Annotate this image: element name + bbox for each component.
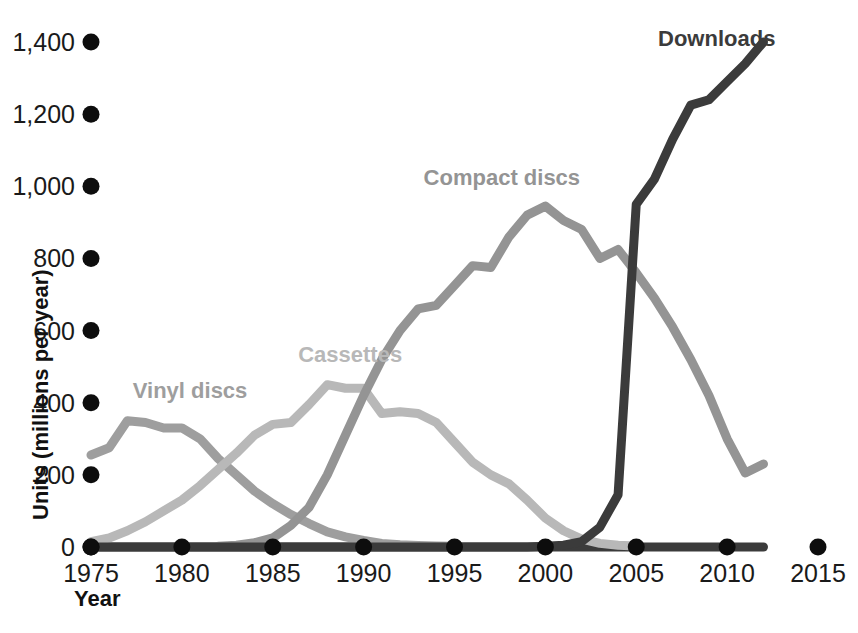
series-line-compact-discs [218, 206, 763, 546]
series-line-downloads [91, 42, 763, 547]
x-tick-marker [173, 539, 190, 556]
x-tick-marker [719, 539, 736, 556]
x-tick-marker [264, 539, 281, 556]
x-tick-marker [810, 539, 827, 556]
x-axis-tick-label: 2000 [518, 559, 574, 588]
y-tick-marker [83, 394, 100, 411]
chart-container: 02004006008001,0001,2001,400 19751980198… [0, 0, 858, 633]
x-axis-title: Year [74, 586, 121, 612]
y-axis-tick-label: 0 [0, 533, 75, 562]
y-axis-tick-label: 1,000 [0, 172, 75, 201]
y-axis-tick-label: 1,200 [0, 100, 75, 129]
y-tick-marker [83, 466, 100, 483]
y-tick-marker [83, 106, 100, 123]
y-tick-marker [83, 250, 100, 267]
chart-plot-area [0, 0, 858, 633]
x-tick-marker [628, 539, 645, 556]
x-tick-marker [537, 539, 554, 556]
series-line-cassettes [91, 385, 636, 546]
y-axis-tick-label: 1,400 [0, 28, 75, 57]
x-tick-marker [355, 539, 372, 556]
series-label-downloads: Downloads [658, 26, 775, 52]
x-axis-tick-label: 2005 [608, 559, 664, 588]
series-label-cassettes: Cassettes [298, 342, 402, 368]
x-axis-tick-label: 1990 [336, 559, 392, 588]
y-axis-title: Units (millions per year) [28, 269, 54, 520]
series-label-vinyl-discs: Vinyl discs [133, 378, 248, 404]
x-axis-tick-label: 1985 [245, 559, 301, 588]
y-tick-marker [83, 322, 100, 339]
x-axis-tick-label: 1980 [154, 559, 210, 588]
x-axis-tick-label: 2010 [699, 559, 755, 588]
x-axis-tick-label: 1975 [63, 559, 119, 588]
series-label-compact-discs: Compact discs [424, 165, 581, 191]
x-tick-marker [83, 539, 100, 556]
x-tick-marker [446, 539, 463, 556]
series-line-vinyl-discs [91, 421, 455, 547]
x-axis-tick-label: 1995 [427, 559, 483, 588]
x-axis-tick-label: 2015 [790, 559, 846, 588]
y-tick-marker [83, 34, 100, 51]
y-tick-marker [83, 178, 100, 195]
